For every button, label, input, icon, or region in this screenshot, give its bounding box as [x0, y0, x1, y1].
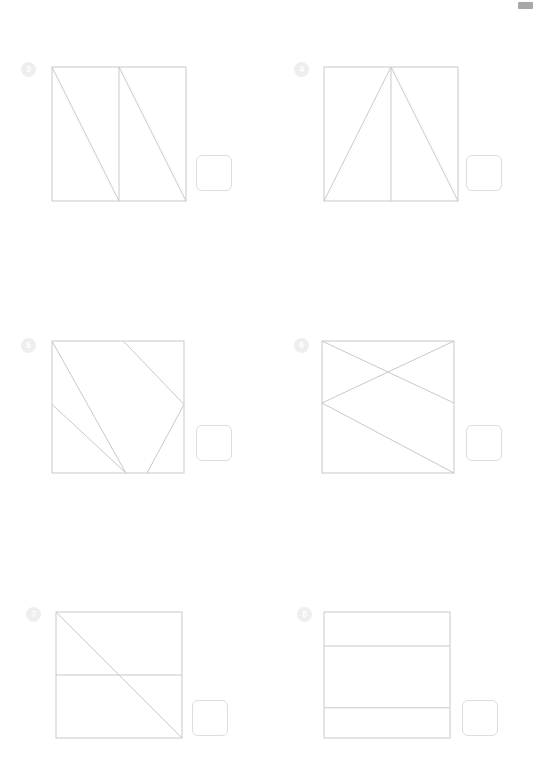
figure-5 — [51, 340, 185, 474]
figure-outline — [324, 612, 450, 738]
problem-number-badge: 7 — [26, 607, 41, 622]
answer-box[interactable] — [196, 425, 232, 461]
problem-number-badge: 4 — [294, 62, 309, 77]
worksheet-page: 345678 — [0, 0, 536, 771]
figure-outline — [52, 341, 184, 473]
diagonal-leftedge-to-bottom — [52, 404, 126, 473]
triangle-right-side — [391, 67, 458, 201]
answer-box[interactable] — [462, 700, 498, 736]
answer-box[interactable] — [192, 700, 228, 736]
answer-box[interactable] — [196, 155, 232, 191]
triangle-left-side — [324, 67, 391, 201]
diagonal-topleft-to-bottomcenter — [52, 341, 126, 473]
figure-outline — [322, 341, 454, 473]
page-corner-mark — [518, 2, 533, 9]
figure-6 — [321, 340, 455, 474]
figure-8 — [323, 611, 451, 739]
problem-number-badge: 3 — [21, 62, 36, 77]
answer-box[interactable] — [466, 425, 502, 461]
problem-number-badge: 5 — [21, 338, 36, 353]
problem-number-badge: 6 — [294, 338, 309, 353]
diagonal-rightedge-to-bottom — [147, 404, 184, 473]
diagonal-top-to-rightedge — [123, 341, 184, 404]
figure-4 — [323, 66, 459, 202]
figure-3 — [51, 66, 187, 202]
diagonal-leftedge-to-bottomright — [322, 403, 454, 473]
diagonal-left-cell — [52, 67, 119, 201]
diagonal-right-cell — [119, 67, 186, 201]
figure-7 — [55, 611, 183, 739]
answer-box[interactable] — [466, 155, 502, 191]
problem-number-badge: 8 — [297, 607, 312, 622]
